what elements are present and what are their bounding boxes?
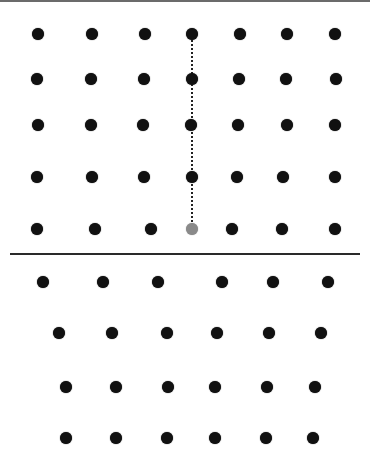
grid-dot xyxy=(226,223,238,235)
grid-dot xyxy=(110,432,122,444)
grid-dot xyxy=(138,73,150,85)
grid-dot xyxy=(106,327,118,339)
grid-dot xyxy=(329,223,341,235)
grid-dot xyxy=(209,381,221,393)
grid-dot xyxy=(137,119,149,131)
grid-dot xyxy=(162,381,174,393)
grid-dot xyxy=(161,327,173,339)
grid-dot xyxy=(280,73,292,85)
grid-dot xyxy=(86,28,98,40)
grid-dot xyxy=(31,73,43,85)
grid-dot xyxy=(31,223,43,235)
grid-dot xyxy=(186,28,198,40)
grid-dot xyxy=(209,432,221,444)
grid-dot xyxy=(315,327,327,339)
grid-dot xyxy=(161,432,173,444)
grid-dot xyxy=(276,223,288,235)
grid-dot xyxy=(85,73,97,85)
grid-dot xyxy=(186,171,198,183)
grid-dot xyxy=(60,432,72,444)
grid-dot xyxy=(31,171,43,183)
grid-dot xyxy=(216,276,228,288)
grid-dot xyxy=(110,381,122,393)
grid-dot xyxy=(32,28,44,40)
grid-dot xyxy=(97,276,109,288)
grid-dot xyxy=(145,223,157,235)
grid-dot xyxy=(152,276,164,288)
grid-dot xyxy=(185,119,197,131)
grid-dot xyxy=(322,276,334,288)
grid-dot xyxy=(186,73,198,85)
grid-dot xyxy=(263,327,275,339)
grid-dot xyxy=(32,119,44,131)
grid-dot xyxy=(85,119,97,131)
grid-dot xyxy=(60,381,72,393)
grid-dot xyxy=(267,276,279,288)
grid-dot xyxy=(329,171,341,183)
grid-dot xyxy=(329,119,341,131)
dotted-vertical-line xyxy=(191,40,193,222)
grid-dot xyxy=(233,73,245,85)
grid-dot xyxy=(138,171,150,183)
grid-dot xyxy=(277,171,289,183)
grid-dot xyxy=(261,381,273,393)
grid-dot xyxy=(330,73,342,85)
grid-dot xyxy=(139,28,151,40)
top-border xyxy=(0,0,370,2)
grid-dot xyxy=(329,28,341,40)
grid-dot xyxy=(89,223,101,235)
grid-dot xyxy=(86,171,98,183)
highlighted-dot xyxy=(186,223,198,235)
grid-dot xyxy=(281,28,293,40)
grid-dot xyxy=(53,327,65,339)
divider-line xyxy=(10,253,360,255)
grid-dot xyxy=(307,432,319,444)
grid-dot xyxy=(260,432,272,444)
grid-dot xyxy=(211,327,223,339)
grid-dot xyxy=(232,119,244,131)
grid-dot xyxy=(309,381,321,393)
grid-dot xyxy=(37,276,49,288)
grid-dot xyxy=(231,171,243,183)
grid-dot xyxy=(281,119,293,131)
grid-dot xyxy=(234,28,246,40)
